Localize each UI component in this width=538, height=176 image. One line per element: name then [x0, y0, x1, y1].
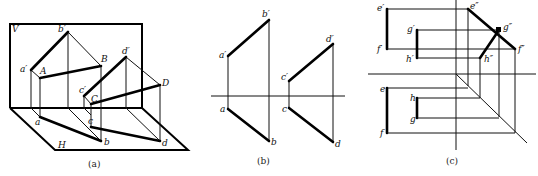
line-ab	[228, 109, 269, 141]
label-b-prime: b′	[262, 9, 270, 19]
label-c: c	[282, 104, 287, 114]
label-e-dprime: e″	[470, 1, 479, 11]
label-d: d	[162, 138, 168, 148]
label-f-prime: f′	[376, 44, 382, 54]
label-A: A	[39, 66, 47, 76]
label-a: a	[220, 104, 225, 114]
label-a-prime: a′	[20, 64, 27, 74]
label-e: e	[380, 84, 385, 94]
proj-c-prime-C	[84, 96, 91, 104]
label-g-prime: g′	[407, 24, 415, 34]
projection-diagram: V H a′ b′ A B a b c′ d′ C D c d (a) a′ b…	[0, 0, 538, 176]
caption-a: (a)	[88, 159, 100, 169]
label-c-prime: c′	[79, 85, 86, 95]
label-V: V	[12, 24, 20, 34]
label-g: g	[410, 114, 416, 124]
panel-b: a′ b′ a b c′ d′ c d (b)	[211, 9, 345, 166]
caption-c: (c)	[446, 156, 458, 166]
line-a-prime-b-prime	[228, 20, 269, 56]
label-d-prime: d′	[326, 34, 334, 44]
panel-a: V H a′ b′ A B a b c′ d′ C D c d (a)	[10, 24, 188, 169]
caption-b: (b)	[257, 156, 270, 166]
label-b: b	[271, 137, 277, 147]
label-f-dprime: f″	[517, 44, 525, 54]
label-f: f	[379, 128, 385, 138]
label-g-dprime: g″	[503, 22, 513, 32]
proj-cx	[84, 108, 91, 115]
label-c-prime: c′	[281, 72, 288, 82]
label-H: H	[57, 140, 66, 150]
label-C: C	[91, 94, 98, 104]
label-d-prime: d′	[122, 46, 130, 56]
line-c-prime-d-prime	[289, 44, 333, 81]
proj-ax	[31, 108, 40, 117]
label-h-prime: h′	[406, 54, 414, 64]
label-b-prime: b′	[58, 24, 66, 34]
line-cd	[289, 108, 333, 142]
proj-bx	[68, 108, 101, 141]
proj-b-prime-B	[68, 32, 101, 66]
panel-c: e′ f′ g′ h′ e″ g″ f″ h″ e f h g (c)	[368, 0, 536, 166]
proj-a-prime-A	[31, 70, 40, 78]
label-h: h	[410, 93, 416, 103]
line-AB	[40, 66, 101, 78]
label-a-prime: a′	[219, 50, 226, 60]
label-d: d	[335, 139, 341, 149]
label-e-prime: e′	[377, 3, 384, 13]
label-B: B	[100, 54, 108, 64]
line-a-prime-b-prime	[31, 32, 68, 70]
label-D: D	[161, 78, 169, 88]
label-c: c	[88, 116, 93, 126]
label-b: b	[104, 137, 110, 147]
label-h-dprime: h″	[484, 54, 494, 64]
label-a: a	[35, 117, 40, 127]
